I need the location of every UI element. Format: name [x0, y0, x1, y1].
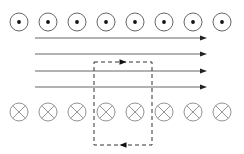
- field-out-dot: [17, 20, 21, 24]
- field-out-dot: [162, 20, 166, 24]
- field-out-dot: [191, 20, 195, 24]
- field-out-dot: [133, 20, 137, 24]
- field-out-dot: [104, 20, 108, 24]
- diagram-background: [0, 0, 244, 154]
- physics-field-diagram: [0, 0, 244, 154]
- field-out-dot: [75, 20, 79, 24]
- field-out-dot: [46, 20, 50, 24]
- field-out-dot: [220, 20, 224, 24]
- diagram-canvas: [0, 0, 244, 154]
